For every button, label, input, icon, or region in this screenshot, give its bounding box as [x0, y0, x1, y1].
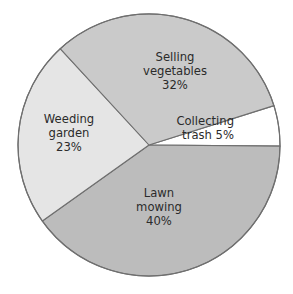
pie-label-line: garden	[49, 126, 90, 140]
pie-label-line: Lawn	[144, 185, 174, 199]
pie-label-line: 40%	[146, 214, 172, 228]
pie-label-line: trash 5%	[182, 128, 234, 142]
pie-chart-svg: Collectingtrash 5%Lawnmowing40%Weedingga…	[0, 0, 293, 294]
pie-label-line: vegetables	[143, 64, 207, 78]
pie-label-line: Selling	[156, 49, 195, 63]
pie-label-line: Collecting	[176, 113, 234, 127]
pie-label-collecting-trash: Collectingtrash 5%	[176, 113, 234, 141]
pie-label-line: mowing	[136, 200, 182, 214]
pie-label-line: 32%	[162, 78, 188, 92]
pie-label-line: 23%	[56, 140, 82, 154]
pie-chart: Collectingtrash 5%Lawnmowing40%Weedingga…	[0, 0, 293, 294]
pie-label-line: Weeding	[44, 111, 94, 125]
